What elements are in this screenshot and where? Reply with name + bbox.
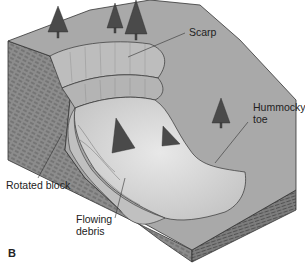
label-scarp: Scarp: [189, 26, 216, 38]
panel-letter: B: [8, 247, 16, 259]
label-flowing-debris-line2: debris: [76, 225, 105, 237]
label-hummocky-toe-line1: Hummocky: [253, 101, 305, 113]
label-rotated-block: Rotated block: [6, 179, 70, 191]
label-flowing-debris-line1: Flowing: [76, 213, 112, 225]
label-hummocky-toe-line2: toe: [253, 113, 268, 125]
slump-diagram: [0, 0, 305, 266]
